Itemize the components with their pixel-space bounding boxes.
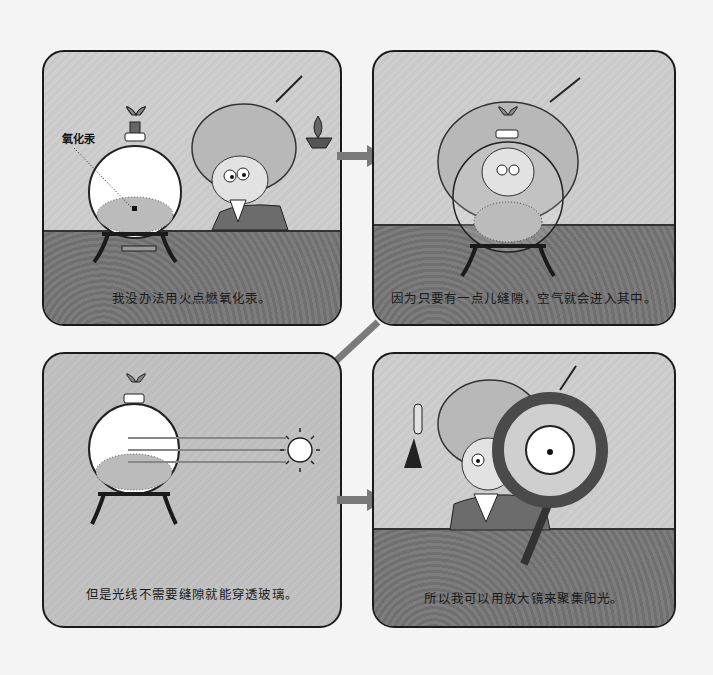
comic-panel-4: 所以我可以用放大镜来聚集阳光。: [372, 352, 676, 628]
caption: 因为只要有一点儿缝隙，空气就会进入其中。: [374, 288, 674, 307]
caption: 我没办法用火点燃氧化汞。: [44, 288, 340, 307]
caption: 所以我可以用放大镜来聚集阳光。: [374, 588, 674, 607]
scientist-behind-flask-illustration: [374, 52, 674, 324]
comic-panel-3: 但是光线不需要缝隙就能穿透玻璃。: [42, 352, 342, 628]
mercury-oxide-label: 氧化汞: [62, 130, 95, 146]
comic-panel-1: 氧化汞 我没办法用火点燃氧化汞。: [42, 50, 342, 326]
flask-illustration: [44, 52, 340, 324]
comic-panel-2: 因为只要有一点儿缝隙，空气就会进入其中。: [372, 50, 676, 326]
scientist-with-magnifier-illustration: [374, 354, 674, 626]
caption: 但是光线不需要缝隙就能穿透玻璃。: [44, 584, 340, 603]
